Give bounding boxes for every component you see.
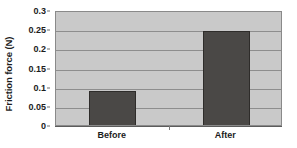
- x-axis-tick-label: Before: [97, 131, 126, 140]
- y-axis-tick-labels: 00.050.10.150.20.250.3: [16, 11, 50, 126]
- x-axis-tick-label: After: [215, 131, 236, 140]
- y-axis-tick-mark: [47, 106, 50, 107]
- y-axis-tick-mark: [47, 87, 50, 88]
- y-axis-tick-label: 0: [41, 122, 46, 131]
- y-axis-tick-label: 0.15: [28, 64, 46, 73]
- y-axis-title: Friction force (N): [0, 0, 16, 148]
- y-axis-tick-mark: [47, 68, 50, 69]
- y-axis-tick-mark: [47, 30, 50, 31]
- y-axis-tick-label: 0.2: [33, 45, 46, 54]
- y-axis-tick-mark: [47, 126, 50, 127]
- y-axis-tick-mark: [47, 11, 50, 12]
- bar: [89, 91, 136, 126]
- y-axis-tick-label: 0.3: [33, 7, 46, 16]
- friction-force-bar-chart: Friction force (N) 00.050.10.150.20.250.…: [0, 0, 297, 148]
- bar: [203, 31, 250, 126]
- y-axis-tick-mark: [47, 49, 50, 50]
- x-axis-tick-mark: [169, 126, 170, 130]
- y-axis-tick-label: 0.05: [28, 102, 46, 111]
- y-axis-tick-label: 0.25: [28, 26, 46, 35]
- y-axis-tick-label: 0.1: [33, 83, 46, 92]
- plot-area: [55, 11, 282, 126]
